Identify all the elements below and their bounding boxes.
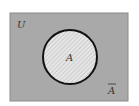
set-a-label: A <box>65 52 73 63</box>
venn-diagram: U A A <box>0 0 139 106</box>
complement-label: A <box>107 85 115 96</box>
universe-label: U <box>17 19 26 30</box>
